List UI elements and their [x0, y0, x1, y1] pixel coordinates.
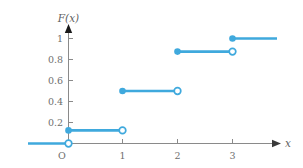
- origin-label: O: [58, 150, 66, 161]
- x-tick-labels: O 1 2 3: [58, 150, 235, 161]
- x-tick-label: 3: [229, 150, 235, 161]
- axes-group: [65, 24, 281, 147]
- x-tick-label: 1: [119, 150, 125, 161]
- filled-circle-marker: [65, 127, 72, 134]
- x-axis-title: x: [285, 137, 291, 149]
- filled-endpoint-markers: [65, 35, 236, 134]
- cdf-step-chart: 1 0.8 0.6 0.4 0.2 O 1 2 3 F(x) x: [0, 0, 303, 168]
- plot-area: 1 0.8 0.6 0.4 0.2 O 1 2 3 F(x) x: [0, 0, 303, 168]
- filled-circle-marker: [229, 35, 236, 42]
- filled-circle-marker: [174, 48, 181, 55]
- filled-circle-marker: [119, 88, 126, 95]
- open-circle-marker: [119, 127, 126, 134]
- y-tick-labels: 1 0.8 0.6 0.4 0.2: [48, 33, 63, 128]
- open-endpoint-markers: [65, 48, 236, 147]
- open-circle-marker: [174, 88, 181, 95]
- step-function-series: [28, 39, 277, 144]
- open-circle-marker: [229, 48, 236, 55]
- x-axis-arrow-icon: [272, 140, 281, 147]
- y-tick-label: 1: [57, 33, 63, 44]
- y-axis-title: F(x): [57, 12, 79, 24]
- y-tick-label: 0.6: [48, 75, 63, 86]
- y-tick-label: 0.4: [48, 96, 63, 107]
- open-circle-marker: [65, 140, 72, 147]
- y-axis-arrow-icon: [65, 24, 72, 33]
- y-tick-label: 0.8: [48, 54, 63, 65]
- x-tick-label: 2: [174, 150, 180, 161]
- y-tick-marks: [69, 39, 74, 123]
- x-tick-marks: [123, 139, 233, 144]
- y-tick-label: 0.2: [48, 117, 63, 128]
